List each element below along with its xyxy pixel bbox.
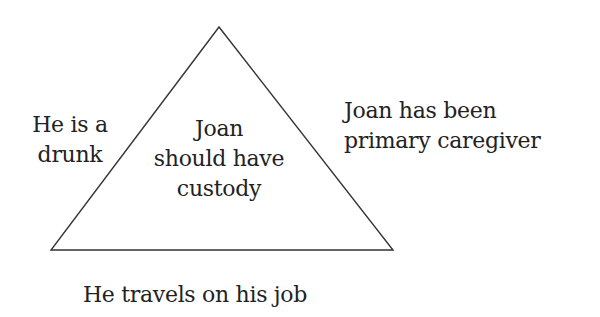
left-claim-line: He is a xyxy=(0,110,140,140)
bottom-claim: He travels on his job xyxy=(60,280,330,310)
bottom-claim-line: He travels on his job xyxy=(60,280,330,310)
left-claim: He is a drunk xyxy=(0,110,140,170)
center-conclusion-line: custody xyxy=(129,174,309,204)
left-claim-line: drunk xyxy=(0,140,140,170)
center-conclusion: Joan should have custody xyxy=(129,140,309,204)
right-claim-line: Joan has been xyxy=(344,96,584,126)
center-conclusion-line: should have xyxy=(129,144,309,174)
right-claim-line: primary caregiver xyxy=(344,126,584,156)
diagram-canvas: He is a drunk Joan has been primary care… xyxy=(0,0,600,317)
center-conclusion-line: Joan xyxy=(129,114,309,144)
right-claim: Joan has been primary caregiver xyxy=(344,96,584,156)
